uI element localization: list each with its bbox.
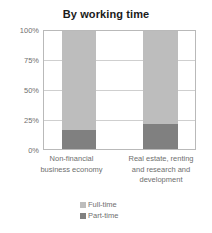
y-axis-tick-25: 25% xyxy=(1,117,39,125)
category-label-non-financial-business-economy: Non-financial business economy xyxy=(30,154,113,175)
bar-segment-part-time[interactable] xyxy=(62,130,96,149)
y-axis-tick-100: 100% xyxy=(1,27,39,35)
category-label-line: Non-financial xyxy=(30,154,113,165)
chart-container: By working time 100% 75% 50% 25% 0% Non-… xyxy=(0,0,212,233)
category-label-line: business economy xyxy=(30,165,113,176)
legend-swatch-icon xyxy=(80,213,86,219)
bar-segment-part-time[interactable] xyxy=(143,124,178,149)
bar-segment-full-time[interactable] xyxy=(143,31,178,124)
chart-legend: Full-time Part-time xyxy=(0,200,212,220)
legend-swatch-icon xyxy=(80,202,86,208)
bar-segment-full-time[interactable] xyxy=(62,31,96,130)
category-label-line: Real estate, renting xyxy=(115,154,207,165)
y-axis: 100% 75% 50% 25% 0% xyxy=(0,30,39,150)
legend-item-part-time[interactable]: Part-time xyxy=(80,211,132,220)
category-label-line: and research and xyxy=(115,165,207,176)
y-axis-tick-75: 75% xyxy=(1,57,39,65)
plot-area xyxy=(43,30,196,150)
bar-non-financial-business-economy[interactable] xyxy=(62,31,96,149)
legend-label: Full-time xyxy=(88,200,117,209)
legend-label: Part-time xyxy=(88,211,118,220)
bar-real-estate-renting-research-development[interactable] xyxy=(143,31,178,149)
category-label-line: development xyxy=(115,175,207,186)
category-label-real-estate-renting-research-development: Real estate, renting and research and de… xyxy=(115,154,207,186)
legend-item-full-time[interactable]: Full-time xyxy=(80,200,132,209)
chart-title: By working time xyxy=(0,8,212,20)
y-axis-tick-50: 50% xyxy=(1,87,39,95)
